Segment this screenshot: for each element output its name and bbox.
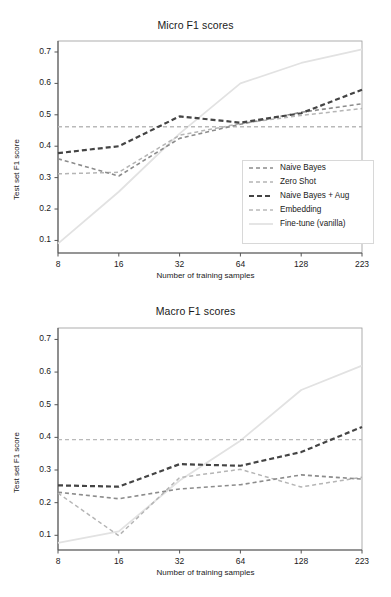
plot-area-micro (0, 0, 391, 298)
x-tick-label: 16 (104, 259, 134, 269)
panel-macro-f1: Macro F1 scores Test set F1 score Number… (0, 298, 391, 596)
x-tick-label: 32 (165, 259, 195, 269)
y-tick-label: 0.5 (25, 109, 51, 119)
x-tick-label: 16 (104, 556, 134, 566)
x-tick-label: 128 (286, 556, 316, 566)
legend-label-naive-bayes: Naive Bayes (280, 164, 326, 172)
y-tick-label: 0.2 (25, 497, 51, 507)
series-line-naive-bayes-aug (58, 90, 362, 153)
y-tick-label: 0.3 (25, 172, 51, 182)
legend-swatch-fine-tune-vanilla (248, 220, 274, 228)
legend-label-naive-bayes-aug: Naive Bayes + Aug (280, 192, 349, 200)
x-tick-label: 223 (347, 556, 377, 566)
legend-item-fine-tune-vanilla[interactable]: Fine-tune (vanilla) (243, 217, 373, 231)
legend-label-embedding: Embedding (280, 206, 321, 214)
y-tick-label: 0.7 (25, 333, 51, 343)
y-tick-label: 0.2 (25, 203, 51, 213)
legend-item-embedding[interactable]: Embedding (243, 203, 373, 217)
plot-area-macro (0, 298, 391, 596)
legend-swatch-embedding (248, 206, 274, 214)
legend-swatch-naive-bayes-aug (248, 192, 274, 200)
series-line-zero-shot (58, 469, 362, 535)
y-tick-label: 0.6 (25, 366, 51, 376)
x-tick-label: 64 (225, 259, 255, 269)
series-line-fine-tune-vanilla (58, 366, 362, 543)
legend-label-zero-shot: Zero Shot (280, 178, 316, 186)
legend-swatch-zero-shot (248, 178, 274, 186)
legend-swatch-naive-bayes (248, 164, 274, 172)
x-tick-label: 64 (225, 556, 255, 566)
y-tick-label: 0.7 (25, 46, 51, 56)
y-tick-label: 0.1 (25, 234, 51, 244)
legend-item-naive-bayes[interactable]: Naive Bayes (243, 161, 373, 175)
series-line-naive-bayes-aug (58, 427, 362, 487)
legend-micro: Naive BayesZero ShotNaive Bayes + AugEmb… (242, 160, 374, 244)
y-tick-label: 0.4 (25, 140, 51, 150)
x-tick-label: 32 (165, 556, 195, 566)
legend-label-fine-tune-vanilla: Fine-tune (vanilla) (280, 220, 346, 228)
y-tick-label: 0.5 (25, 399, 51, 409)
y-tick-label: 0.4 (25, 431, 51, 441)
figure-two-panel-f1-scores: Micro F1 scores Test set F1 score Number… (0, 0, 391, 597)
legend-item-zero-shot[interactable]: Zero Shot (243, 175, 373, 189)
x-tick-label: 8 (43, 556, 73, 566)
series-line-naive-bayes (58, 475, 362, 499)
panel-micro-f1: Micro F1 scores Test set F1 score Number… (0, 0, 391, 298)
y-tick-label: 0.3 (25, 464, 51, 474)
legend-item-naive-bayes-aug[interactable]: Naive Bayes + Aug (243, 189, 373, 203)
x-tick-label: 8 (43, 259, 73, 269)
x-tick-label: 128 (286, 259, 316, 269)
y-tick-label: 0.1 (25, 529, 51, 539)
x-tick-label: 223 (347, 259, 377, 269)
y-tick-label: 0.6 (25, 77, 51, 87)
